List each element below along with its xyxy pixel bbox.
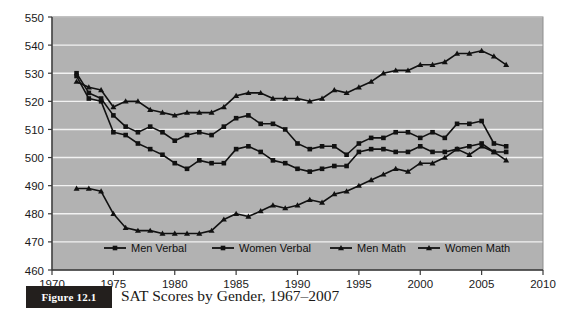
data-point-marker [430,130,435,135]
data-point-marker [430,150,435,155]
y-tick-label: 540 [25,40,44,52]
legend-marker-2 [221,246,226,251]
figure-container: 4604704804905005105205305405501970197519… [0,0,576,310]
data-point-marker [406,130,411,135]
data-point-marker [172,138,177,143]
y-tick-label: 520 [25,96,44,108]
sat-scores-line-chart: 4604704804905005105205305405501970197519… [0,0,576,310]
data-point-marker [381,147,386,152]
data-point-marker [307,169,312,174]
data-point-marker [271,122,276,127]
data-point-marker [209,133,214,138]
data-point-marker [246,113,251,118]
data-point-marker [295,141,300,146]
data-point-marker [295,167,300,172]
data-point-marker [332,144,337,149]
data-point-marker [271,158,276,163]
y-tick-label: 530 [25,68,44,80]
data-point-marker [344,152,349,157]
data-point-marker [369,136,374,141]
data-point-marker [320,167,325,172]
data-point-marker [320,144,325,149]
y-tick-label: 470 [25,236,44,248]
data-point-marker [479,119,484,124]
data-point-marker [123,124,128,129]
data-point-marker [197,158,202,163]
data-point-marker [148,147,153,152]
data-point-marker [160,152,165,157]
legend-label-1: Men Verbal [131,242,187,254]
data-point-marker [87,96,92,101]
data-point-marker [418,144,423,149]
data-point-marker [111,113,116,118]
data-point-marker [357,150,362,155]
data-point-marker [418,136,423,141]
figure-caption-text: SAT Scores by Gender, 1967–2007 [121,286,339,306]
data-point-marker [222,124,227,129]
y-tick-label: 480 [25,208,44,220]
y-axis-ticks: 460470480490500510520530540550 [25,12,52,277]
data-point-marker [246,144,251,149]
figure-caption-row: Figure 12.1 SAT Scores by Gender, 1967–2… [26,286,576,310]
data-point-marker [111,130,116,135]
legend-label-4: Women Math [445,242,510,254]
data-point-marker [307,147,312,152]
data-point-marker [123,133,128,138]
figure-number-tag: Figure 12.1 [26,286,112,308]
data-point-marker [148,124,153,129]
data-point-marker [136,141,141,146]
data-point-marker [197,130,202,135]
data-point-marker [185,167,190,172]
data-point-marker [160,130,165,135]
data-point-marker [504,144,509,149]
data-point-marker [467,122,472,127]
y-tick-label: 460 [25,265,44,277]
data-point-marker [443,150,448,155]
data-point-marker [504,150,509,155]
data-point-marker [258,122,263,127]
data-point-marker [209,161,214,166]
chart-legend: Men VerbalWomen VerbalMen MathWomen Math [104,242,510,254]
data-point-marker [381,136,386,141]
data-point-marker [234,147,239,152]
data-point-marker [258,150,263,155]
data-point-marker [406,150,411,155]
data-point-marker [357,141,362,146]
data-point-marker [222,161,227,166]
data-point-marker [283,161,288,166]
data-point-marker [443,136,448,141]
data-point-marker [136,130,141,135]
data-point-marker [393,150,398,155]
data-point-marker [344,164,349,169]
legend-marker-1 [113,246,118,251]
data-point-marker [369,147,374,152]
data-point-marker [492,141,497,146]
data-point-marker [172,161,177,166]
data-point-marker [99,99,104,104]
legend-label-2: Women Verbal [239,242,311,254]
data-point-marker [455,122,460,127]
data-point-marker [234,116,239,121]
data-point-marker [332,164,337,169]
legend-label-3: Men Math [357,242,406,254]
y-tick-label: 500 [25,152,44,164]
data-point-marker [393,130,398,135]
y-tick-label: 550 [25,12,44,24]
data-point-marker [74,74,79,79]
data-point-marker [283,127,288,132]
data-point-marker [185,133,190,138]
data-point-marker [467,144,472,149]
y-tick-label: 490 [25,180,44,192]
y-tick-label: 510 [25,124,44,136]
